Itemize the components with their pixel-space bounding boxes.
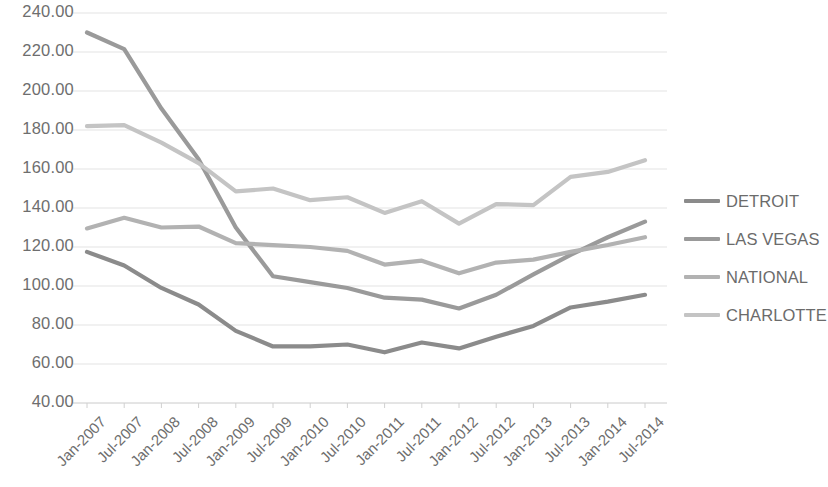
- series-line-las-vegas: [87, 33, 645, 309]
- y-axis-tick-label: 160.00: [0, 158, 74, 177]
- chart-legend: DETROITLAS VEGASNATIONALCHARLOTTE: [684, 182, 828, 334]
- legend-item-las-vegas[interactable]: LAS VEGAS: [684, 220, 828, 258]
- legend-swatch-icon: [684, 275, 720, 279]
- y-axis-tick-label: 220.00: [0, 41, 74, 60]
- legend-swatch-icon: [684, 313, 720, 317]
- y-axis-tick-label: 140.00: [0, 197, 74, 216]
- legend-item-label: NATIONAL: [726, 268, 808, 287]
- line-chart: 40.0060.0080.00100.00120.00140.00160.001…: [0, 0, 828, 487]
- y-axis-tick-label: 240.00: [0, 2, 74, 21]
- series-line-detroit: [87, 252, 645, 352]
- series-line-national: [87, 218, 645, 274]
- legend-item-national[interactable]: NATIONAL: [684, 258, 828, 296]
- legend-item-label: DETROIT: [726, 192, 799, 211]
- legend-item-detroit[interactable]: DETROIT: [684, 182, 828, 220]
- y-axis-tick-label: 40.00: [0, 392, 74, 411]
- legend-item-label: LAS VEGAS: [726, 230, 820, 249]
- y-axis-tick-label: 60.00: [0, 353, 74, 372]
- y-axis-tick-label: 100.00: [0, 275, 74, 294]
- y-axis-tick-label: 120.00: [0, 236, 74, 255]
- legend-swatch-icon: [684, 199, 720, 203]
- y-axis-tick-label: 80.00: [0, 314, 74, 333]
- legend-item-label: CHARLOTTE: [726, 306, 827, 325]
- series-line-charlotte: [87, 125, 645, 223]
- y-axis-tick-label: 180.00: [0, 119, 74, 138]
- legend-swatch-icon: [684, 237, 720, 241]
- legend-item-charlotte[interactable]: CHARLOTTE: [684, 296, 828, 334]
- y-axis-tick-label: 200.00: [0, 80, 74, 99]
